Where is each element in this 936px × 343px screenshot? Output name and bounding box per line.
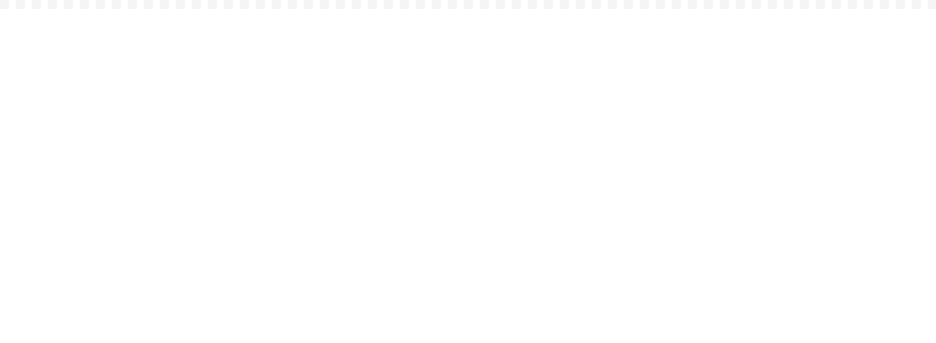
figure-panel-row [0, 0, 936, 343]
plot-svg-2 [312, 0, 624, 343]
plot-svg-1 [0, 0, 312, 343]
chart-panel-1 [0, 0, 312, 343]
chart-panel-3 [624, 0, 936, 343]
chart-panel-2 [312, 0, 624, 343]
plot-svg-3 [624, 0, 936, 343]
